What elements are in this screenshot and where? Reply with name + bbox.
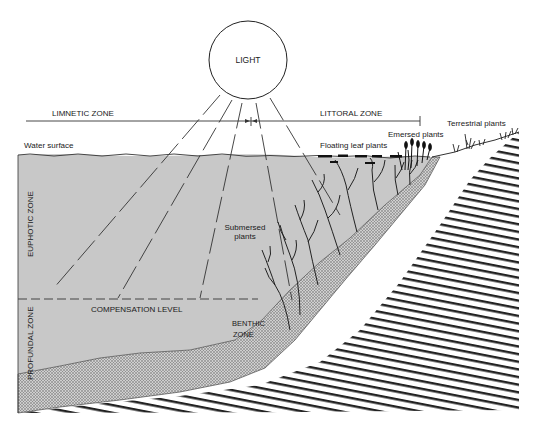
terrestrial-plants-label: Terrestrial plants bbox=[447, 119, 506, 128]
benthic-zone-label-line2: ZONE bbox=[233, 330, 254, 339]
profundal-zone-label: PROFUNDAL ZONE bbox=[26, 307, 35, 381]
limnetic-zone-label: LIMNETIC ZONE bbox=[52, 109, 114, 118]
light-label: LIGHT bbox=[235, 55, 260, 65]
euphotic-zone-label: EUPHOTIC ZONE bbox=[26, 191, 35, 257]
littoral-zone-label: LITTORAL ZONE bbox=[320, 109, 382, 118]
floating-leaf-plants-label: Floating leaf plants bbox=[320, 141, 387, 150]
benthic-zone-label-line1: BENTHIC bbox=[232, 319, 266, 328]
compensation-level-label: COMPENSATION LEVEL bbox=[91, 305, 183, 314]
lake-zonation-diagram: LIGHT LIMNETIC ZONE LITTORAL ZONE Terres… bbox=[0, 0, 535, 424]
water-surface-label: Water surface bbox=[24, 141, 74, 150]
submersed-plants-label-line1: Submersed bbox=[225, 223, 266, 232]
submersed-plants-label-line2: plants bbox=[234, 232, 255, 241]
emersed-plants-label: Emersed plants bbox=[388, 130, 444, 139]
